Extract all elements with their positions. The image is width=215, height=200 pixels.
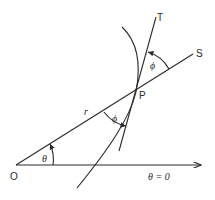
label-phi-upper: ϕ <box>150 60 155 71</box>
radius-line <box>16 54 193 165</box>
label-tangent-t: T <box>157 12 163 23</box>
label-phi-lower: ϕ <box>112 113 117 124</box>
label-initial-line: θ = 0 <box>148 171 170 182</box>
polar-tangent-diagram: O P T S r θ ϕ ϕ θ = 0 <box>0 0 215 200</box>
theta-arc-icon <box>50 144 53 165</box>
label-s: S <box>196 48 203 59</box>
label-point-p: P <box>139 90 146 101</box>
label-theta: θ <box>42 153 47 164</box>
label-origin: O <box>10 171 18 182</box>
label-radius: r <box>84 106 88 117</box>
